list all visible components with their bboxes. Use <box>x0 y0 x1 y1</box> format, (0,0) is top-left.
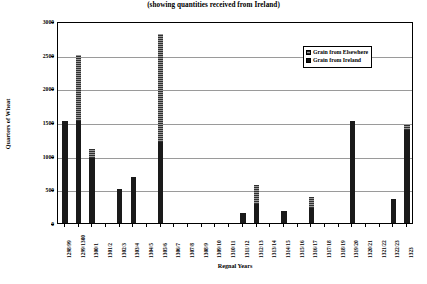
x-tick-label: 1303/4 <box>134 243 140 258</box>
x-tick-mark <box>214 224 215 227</box>
x-tick-label: 1305/6 <box>162 243 168 258</box>
y-tick-mark <box>51 22 54 23</box>
x-tick-mark <box>365 224 366 227</box>
x-tick-mark <box>173 224 174 227</box>
y-tick-label: 1000 <box>18 154 54 160</box>
y-tick-mark <box>51 190 54 191</box>
legend-item-elsewhere: Grain from Elsewhere <box>306 49 368 57</box>
bar-segment-elsewhere <box>158 34 164 142</box>
x-tick-mark <box>119 224 120 227</box>
y-tick-mark <box>51 123 54 124</box>
x-tick-label: 1302/3 <box>121 243 127 258</box>
x-tick-label: 1320/21 <box>367 240 373 258</box>
bar-segment-ireland <box>62 121 68 223</box>
bar-segment-ireland <box>254 204 260 223</box>
x-tick-label: 1314/15 <box>285 240 291 258</box>
bar-1303/4 <box>131 177 137 223</box>
y-tick-label: 0 <box>18 221 54 227</box>
x-tick-mark <box>283 224 284 227</box>
bar-1316/17 <box>309 197 315 223</box>
bar-1299/1300 <box>76 55 82 223</box>
chart-title: (showing quantities received from Irelan… <box>0 1 427 10</box>
y-tick-mark <box>51 89 54 90</box>
gridline <box>58 191 412 192</box>
x-tick-label: 1318/19 <box>340 240 346 258</box>
chart-legend: Grain from Elsewhere Grain from Ireland <box>303 46 372 68</box>
bar-1314/15 <box>281 211 287 223</box>
x-tick-mark <box>228 224 229 227</box>
bar-segment-elsewhere <box>404 125 410 130</box>
bar-segment-ireland <box>76 121 82 223</box>
x-tick-mark <box>338 224 339 227</box>
solid-black-swatch-icon <box>306 58 311 63</box>
y-tick-label: 500 <box>18 187 54 193</box>
y-tick-mark <box>51 157 54 158</box>
bar-segment-ireland <box>391 199 397 223</box>
x-tick-label: 1310/11 <box>230 241 236 258</box>
x-tick-mark <box>64 224 65 227</box>
x-tick-label: 1311/12 <box>244 241 250 258</box>
x-tick-label: 1300/1 <box>93 243 99 258</box>
bar-segment-elsewhere <box>89 149 95 158</box>
x-tick-mark <box>242 224 243 227</box>
x-tick-label: 1323 <box>408 247 414 258</box>
x-tick-label: 1313/14 <box>271 240 277 258</box>
x-tick-label: 1312/13 <box>258 240 264 258</box>
bar-segment-ireland <box>281 211 287 223</box>
bar-segment-ireland <box>117 189 123 223</box>
bar-segment-ireland <box>89 158 95 223</box>
x-tick-label: 1322/23 <box>394 240 400 258</box>
gridline <box>58 158 412 159</box>
bar-segment-ireland <box>240 213 246 223</box>
bar-segment-ireland <box>131 177 137 223</box>
x-tick-label: 1315/16 <box>299 240 305 258</box>
y-tick-label: 1500 <box>18 120 54 126</box>
x-tick-label: 1299/1300 <box>80 235 86 258</box>
bar-1305/6 <box>158 34 164 223</box>
x-tick-mark <box>310 224 311 227</box>
y-tick-label: 3000 <box>18 19 54 25</box>
grain-imports-bar-chart: (showing quantities received from Irelan… <box>0 0 427 284</box>
x-tick-label: 1306/7 <box>175 243 181 258</box>
bar-1302/3 <box>117 189 123 223</box>
x-tick-mark <box>132 224 133 227</box>
x-tick-label: 1307/8 <box>189 243 195 258</box>
bar-segment-elsewhere <box>309 197 315 207</box>
bar-1323 <box>404 125 410 223</box>
x-tick-label: 1308/9 <box>203 243 209 258</box>
x-tick-label: 1304/5 <box>148 243 154 258</box>
x-tick-label: 1301/2 <box>107 243 113 258</box>
x-tick-label: 1316/17 <box>312 240 318 258</box>
x-axis-title: Regnal Years <box>57 262 413 269</box>
x-axis-tick-labels: 1298/991299/13001300/11301/21302/31303/4… <box>57 228 413 260</box>
y-axis-tick-labels: 050010001500200025003000 <box>14 22 54 224</box>
bar-segment-elsewhere <box>254 185 260 204</box>
legend-label-ireland: Grain from Ireland <box>313 57 361 64</box>
x-tick-mark <box>324 224 325 227</box>
x-tick-mark <box>297 224 298 227</box>
x-tick-label: 1321/22 <box>381 240 387 258</box>
bar-segment-ireland <box>404 130 410 223</box>
x-tick-label: 1298/99 <box>66 240 72 258</box>
gridline <box>58 124 412 125</box>
x-tick-mark <box>78 224 79 227</box>
bar-segment-ireland <box>350 121 356 223</box>
x-tick-mark <box>406 224 407 227</box>
x-tick-mark <box>201 224 202 227</box>
y-tick-label: 2000 <box>18 86 54 92</box>
legend-label-elsewhere: Grain from Elsewhere <box>313 49 368 56</box>
x-tick-mark <box>160 224 161 227</box>
x-tick-label: 1309/10 <box>216 240 222 258</box>
x-tick-mark <box>379 224 380 227</box>
y-tick-label: 2500 <box>18 53 54 59</box>
x-tick-mark <box>146 224 147 227</box>
gridline <box>58 90 412 91</box>
bar-1319/20 <box>350 121 356 223</box>
y-axis-title: Quarters of Wheat <box>4 84 11 164</box>
x-tick-mark <box>351 224 352 227</box>
x-tick-mark <box>187 224 188 227</box>
x-tick-label: 1317/18 <box>326 240 332 258</box>
x-tick-mark <box>91 224 92 227</box>
bar-1322/23 <box>391 199 397 223</box>
bar-segment-ireland <box>158 142 164 223</box>
